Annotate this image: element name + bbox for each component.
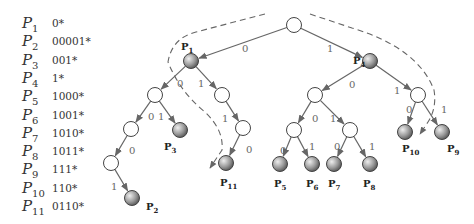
internal-node: [124, 122, 139, 137]
internal-node: [287, 18, 302, 33]
edge-bit-label: 1: [369, 141, 375, 152]
prefix-node-p3: [173, 123, 188, 138]
trie-edge-n10-n100: [298, 101, 311, 122]
node-label-p3: P3: [164, 141, 177, 155]
node-label-p2: P2: [146, 201, 159, 215]
edge-bit-label: 0: [312, 113, 318, 124]
prefix-node-p10: [398, 125, 413, 140]
prefix-node-p1: [184, 54, 199, 69]
edge-bit-label: 1: [327, 43, 333, 54]
traversal-right-dashed-path: [310, 14, 435, 134]
node-label-p1: P1: [181, 41, 194, 55]
binary-trie-diagram: 01010101100101010101P1P4P3P2P11P5P6P7P8P…: [0, 0, 474, 224]
edge-bit-label: 1: [309, 141, 315, 152]
prefix-node-p7: [327, 157, 342, 172]
edge-bit-label: 1: [198, 78, 204, 89]
edge-bit-label: 1: [111, 181, 117, 192]
node-label-p9: P9: [447, 143, 460, 157]
prefix-node-p11: [219, 156, 234, 171]
internal-node: [148, 88, 163, 103]
edge-bit-label: 1: [158, 111, 164, 122]
node-label-p7: P7: [328, 178, 341, 192]
edge-bit-label: 0: [349, 79, 355, 90]
trie-edge-n11-n111: [422, 101, 437, 125]
edge-bit-label: 1: [441, 104, 447, 115]
prefix-node-p5: [273, 157, 288, 172]
edge-bit-label: 1: [394, 85, 400, 96]
edge-bit-label: 0: [406, 104, 412, 115]
trie-edge-n1-n10: [322, 65, 363, 91]
internal-node: [308, 88, 323, 103]
edge-bit-label: 0: [242, 43, 248, 54]
edge-bit-label: 0: [177, 78, 183, 89]
edge-bit-label: 0: [148, 111, 154, 122]
trie-edge-n011-n0110: [230, 135, 240, 156]
internal-node: [104, 156, 119, 171]
edge-bit-label: 1: [330, 113, 336, 124]
node-label-p10: P10: [402, 143, 419, 157]
internal-node: [215, 88, 230, 103]
node-label-p8: P8: [363, 178, 376, 192]
prefix-node-p8: [363, 157, 378, 172]
edge-bit-label: 0: [280, 145, 286, 156]
trie-edge-n101-n1011: [354, 136, 366, 156]
node-label-p6: P6: [306, 178, 319, 192]
internal-node: [411, 88, 426, 103]
internal-node: [236, 121, 251, 136]
prefix-node-p6: [305, 157, 320, 172]
internal-node: [343, 123, 358, 138]
edge-bit-label: 0: [129, 145, 135, 156]
node-label-p5: P5: [274, 178, 287, 192]
edge-bit-label: 1: [222, 113, 228, 124]
prefix-node-p2: [125, 191, 140, 206]
prefix-node-p9: [435, 125, 450, 140]
node-label-p11: P11: [220, 177, 237, 191]
edge-bit-label: 0: [246, 144, 252, 155]
edge-bit-label: 0: [334, 141, 340, 152]
trie-edge-n100-n1001: [298, 137, 309, 157]
internal-node: [287, 123, 302, 138]
trie-edge-n000-n0000: [115, 135, 127, 155]
